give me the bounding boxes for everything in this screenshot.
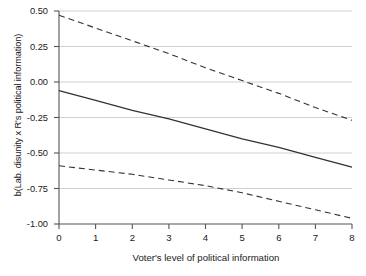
x-tick-label: 2 xyxy=(122,232,142,243)
x-tick-label: 6 xyxy=(269,232,289,243)
y-tick-label: -1.00 xyxy=(2,219,48,229)
x-axis-label: Voter's level of political information xyxy=(59,252,353,263)
y-axis-label: b(Lab. disunity x R's political informat… xyxy=(13,0,23,230)
series-lower-bound-line xyxy=(59,166,352,219)
x-tick-label: 8 xyxy=(342,232,362,243)
x-tick-label: 3 xyxy=(159,232,179,243)
figure-caption xyxy=(4,268,362,276)
x-axis-ticks xyxy=(59,224,352,229)
y-axis-ticks xyxy=(54,11,59,224)
figure-container: 0.50 0.25 0.00 -0.25 -0.50 -0.75 -1.00 0… xyxy=(0,0,366,276)
x-tick-label: 5 xyxy=(232,232,252,243)
y-tick-label: -0.25 xyxy=(2,113,48,123)
y-tick-label: -0.50 xyxy=(2,148,48,158)
series-upper-bound-line xyxy=(59,15,352,120)
y-tick-label: 0.25 xyxy=(2,42,48,52)
series-marginal-effect-line xyxy=(59,91,352,168)
y-tick-label: 0.50 xyxy=(2,6,48,16)
y-tick-label: -0.75 xyxy=(2,184,48,194)
x-tick-label: 1 xyxy=(86,232,106,243)
y-tick-label: 0.00 xyxy=(2,77,48,87)
x-tick-label: 4 xyxy=(196,232,216,243)
gridlines xyxy=(59,11,352,189)
x-tick-label: 7 xyxy=(305,232,325,243)
x-tick-label: 0 xyxy=(49,232,69,243)
